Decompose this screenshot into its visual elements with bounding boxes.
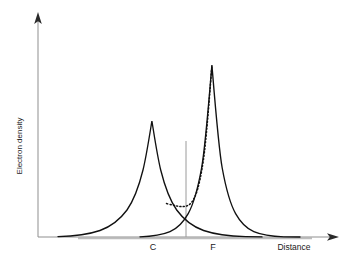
electron-density-figure: C F Distance Electron density [0, 0, 350, 260]
carbon-density-curve [58, 121, 262, 237]
x-axis-label: Distance [277, 242, 310, 252]
plot-canvas: C F Distance Electron density [0, 0, 350, 260]
y-axis [34, 12, 42, 237]
tick-label-f: F [210, 242, 216, 252]
tick-label-c: C [150, 242, 157, 252]
fluorine-density-curve [140, 65, 300, 237]
y-axis-label: Electron density [15, 118, 24, 175]
